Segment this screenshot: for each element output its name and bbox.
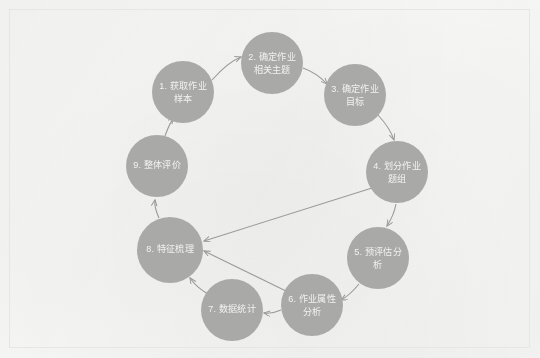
node-4-circle[interactable] bbox=[366, 141, 428, 203]
node-2[interactable]: 2. 确定作业 相关主题 bbox=[241, 32, 303, 94]
node-5-label-line-1: 5. 预评估分 bbox=[354, 246, 402, 257]
edge-7-to-8 bbox=[190, 278, 208, 294]
node-4-label-line-2: 题组 bbox=[388, 173, 406, 184]
node-3-label-line-2: 目标 bbox=[346, 96, 364, 107]
node-9-label-line-1: 9. 整体评价 bbox=[133, 159, 181, 170]
node-2-circle[interactable] bbox=[241, 32, 303, 94]
node-1[interactable]: 1. 获取作业 样本 bbox=[152, 61, 214, 123]
node-1-label-line-1: 1. 获取作业 bbox=[159, 80, 207, 91]
node-7-label-line-1: 7. 数据统计 bbox=[208, 303, 256, 314]
edge-4-to-5 bbox=[387, 204, 396, 226]
node-3[interactable]: 3. 确定作业 目标 bbox=[324, 64, 386, 126]
edge-1-to-2 bbox=[212, 57, 241, 80]
node-5-label-line-2: 析 bbox=[373, 259, 382, 270]
edge-8-to-9 bbox=[155, 200, 159, 218]
node-1-label-line-2: 样本 bbox=[174, 93, 192, 104]
node-2-label-line-2: 相关主题 bbox=[254, 64, 291, 75]
edge-4-to-8 bbox=[204, 188, 372, 241]
node-6-circle[interactable] bbox=[281, 274, 343, 336]
edge-3-to-4 bbox=[378, 115, 394, 140]
node-5-circle[interactable] bbox=[347, 227, 409, 289]
node-4[interactable]: 4. 划分作业 题组 bbox=[366, 141, 428, 203]
node-4-label-line-1: 4. 划分作业 bbox=[373, 160, 421, 171]
node-9[interactable]: 9. 整体评价 bbox=[126, 135, 188, 197]
node-7[interactable]: 7. 数据统计 bbox=[201, 279, 263, 341]
node-5[interactable]: 5. 预评估分 析 bbox=[347, 227, 409, 289]
edge-6-to-7 bbox=[264, 310, 281, 313]
node-3-circle[interactable] bbox=[324, 64, 386, 126]
node-1-circle[interactable] bbox=[152, 61, 214, 123]
figure-root: 1. 获取作业 样本 2. 确定作业 相关主题 3. 确定作业 目标 4. 划分… bbox=[0, 0, 540, 358]
node-8[interactable]: 8. 特征梳理 bbox=[137, 217, 203, 283]
node-6[interactable]: 6. 作业属性 分析 bbox=[281, 274, 343, 336]
cross-connectors bbox=[204, 188, 372, 292]
circular-flow-diagram: 1. 获取作业 样本 2. 确定作业 相关主题 3. 确定作业 目标 4. 划分… bbox=[0, 0, 540, 358]
node-8-label-line-1: 8. 特征梳理 bbox=[146, 243, 194, 254]
node-3-label-line-1: 3. 确定作业 bbox=[331, 83, 379, 94]
node-2-label-line-1: 2. 确定作业 bbox=[248, 51, 296, 62]
node-6-label-line-1: 6. 作业属性 bbox=[288, 293, 336, 304]
edge-2-to-3 bbox=[303, 68, 327, 84]
edge-5-to-6 bbox=[341, 284, 359, 300]
node-6-label-line-2: 分析 bbox=[303, 306, 321, 317]
